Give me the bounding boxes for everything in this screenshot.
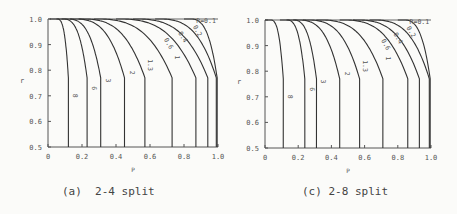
y-tick-label: 0.5 [246,145,259,153]
curve-label: 1 [173,55,181,59]
x-tick-label: 0.4 [325,154,338,162]
x-tick-label: 0.2 [76,153,89,161]
curve-label: R=0.1 [196,17,216,25]
x-tick-label: 0.2 [292,154,305,162]
curve-R-1 [94,19,172,147]
y-tick-label: 0.5 [29,144,42,152]
x-tick-label: 0 [263,154,267,162]
curve-R-1.3 [303,20,359,148]
curve-label: 3 [319,79,327,83]
curve-R-1.3 [79,19,145,147]
curve-label: 1 [384,56,392,60]
x-tick-label: 0.8 [178,153,191,161]
curve-R-6 [57,19,88,147]
x-axis-label: P [346,167,350,174]
chart-c: 0.50.60.70.80.91.000.20.40.60.81.0Pr8632… [230,0,457,180]
y-tick-label: 0.6 [29,118,42,126]
curve-label: 8 [286,95,294,99]
y-tick-label: 0.9 [29,42,42,50]
curve-label: 2 [343,72,351,76]
curve-label: 6 [90,86,98,90]
y-tick-label: 1.0 [29,16,42,24]
y-tick-label: 0.8 [246,68,259,76]
y-tick-label: 1.0 [246,17,259,25]
curve-label: 1.3 [361,60,369,72]
x-tick-label: 1.0 [425,154,438,162]
curve-label: 1.3 [146,59,154,71]
curve-label: 6 [308,87,316,91]
curve-R-3 [62,19,101,147]
curve-label: 0.2 [405,25,418,39]
curve-label: 2 [128,71,136,75]
curve-R-3 [287,20,317,148]
curve-label: 0.2 [191,24,204,38]
curve-label: 0.6 [379,38,392,52]
x-tick-label: 0.8 [391,154,404,162]
curve-label: 3 [104,78,112,82]
y-tick-label: 0.9 [246,43,259,51]
y-axis-label: r [237,78,241,86]
curve-R-8 [50,19,69,147]
curve-label: 0.6 [162,37,175,51]
x-tick-label: 0.6 [358,154,371,162]
y-tick-label: 0.8 [29,67,42,75]
caption-c: (c) 2-8 split [302,185,388,198]
y-tick-label: 0.6 [246,119,259,127]
x-axis-label: P [131,166,135,173]
x-tick-label: 0.4 [110,153,123,161]
curve-label: R=0.1 [410,18,430,26]
y-axis-label: r [20,77,24,85]
x-tick-label: 0 [46,153,50,161]
curve-R-8 [265,20,283,148]
y-tick-label: 0.7 [246,94,259,102]
caption-a: (a) 2-4 split [62,185,155,198]
y-tick-label: 0.7 [29,93,42,101]
x-tick-label: 1.0 [212,153,225,161]
curve-label: 0.4 [176,30,189,44]
curve-label: 8 [71,94,79,98]
chart-a: 0.50.60.70.80.91.000.20.40.60.81.0Pr8632… [0,0,230,180]
curve-R-2 [70,19,124,147]
x-tick-label: 0.6 [144,153,157,161]
